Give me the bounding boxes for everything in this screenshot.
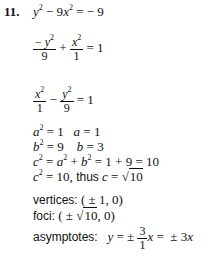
asymptotes-line: asymptotes: y = ± 31x = ± 3x: [33, 225, 193, 252]
standard-form-equation: − y29 + x21 = 1: [33, 36, 104, 63]
problem-number: 11.: [4, 4, 20, 20]
vertices-line: vertices: ( ± 1, 0): [33, 192, 123, 208]
rearranged-equation: x21 − y29 = 1: [33, 88, 94, 115]
c-result: c2 = 10, thus c = √10: [33, 169, 143, 185]
b-values: b2 = 9 b = 3: [33, 139, 104, 155]
foci-line: foci: ( ± √10, 0): [33, 208, 115, 224]
vertices-label: vertices:: [33, 193, 78, 207]
original-equation: y2 − 9x2 = − 9: [33, 4, 104, 20]
asymptotes-label: asymptotes:: [33, 230, 98, 244]
foci-label: foci:: [33, 209, 55, 223]
